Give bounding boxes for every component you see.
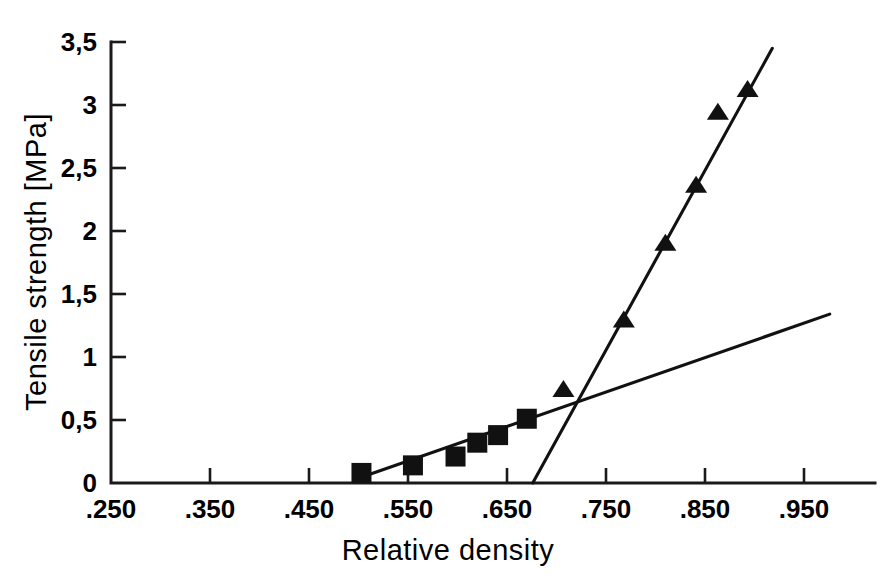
data-point-square-1 [403,455,423,475]
data-point-triangle-4 [707,103,729,120]
steep-fit-line [533,48,773,483]
y-tick-label-2: 1 [83,342,97,372]
data-point-triangle-2 [654,234,676,251]
data-markers [351,80,758,483]
data-point-triangle-5 [737,80,759,97]
axes [111,42,875,483]
y-tick-label-0: 0 [83,468,97,498]
data-point-triangle-0 [552,380,574,397]
y-tick-label-5: 2,5 [61,153,97,183]
x-tick-label-5: .750 [581,494,632,524]
y-axis-title: Tensile strength [MPa] [20,113,52,411]
x-tick-label-1: .350 [185,494,236,524]
x-tick-label-4: .650 [482,494,533,524]
y-tick-label-1: 0,5 [61,405,97,435]
x-tick-label-2: .450 [284,494,335,524]
data-point-triangle-3 [685,176,707,193]
y-tick-label-4: 2 [83,216,97,246]
x-tick-label-7: .950 [779,494,830,524]
y-tick-label-7: 3,5 [61,27,97,57]
chart-canvas: .250.350.450.550.650.750.850.950 00,511,… [0,0,885,588]
x-axis-title: Relative density [342,534,555,566]
data-point-square-3 [467,433,487,453]
data-point-square-4 [488,425,508,445]
data-point-square-0 [351,463,371,483]
fit-lines [356,48,830,483]
axis-spine [111,42,875,483]
y-axis-tick-labels: 00,511,522,533,5 [61,27,97,498]
shallow-fit-line [356,314,830,479]
figure-container: .250.350.450.550.650.750.850.950 00,511,… [0,0,885,588]
data-point-square-5 [517,409,537,429]
x-axis-tick-labels: .250.350.450.550.650.750.850.950 [86,494,830,524]
x-tick-label-6: .850 [680,494,731,524]
y-tick-label-3: 1,5 [61,279,97,309]
x-tick-label-3: .550 [383,494,434,524]
data-point-square-2 [446,447,466,467]
x-tick-label-0: .250 [86,494,137,524]
y-tick-label-6: 3 [83,90,97,120]
data-point-triangle-1 [613,311,635,328]
